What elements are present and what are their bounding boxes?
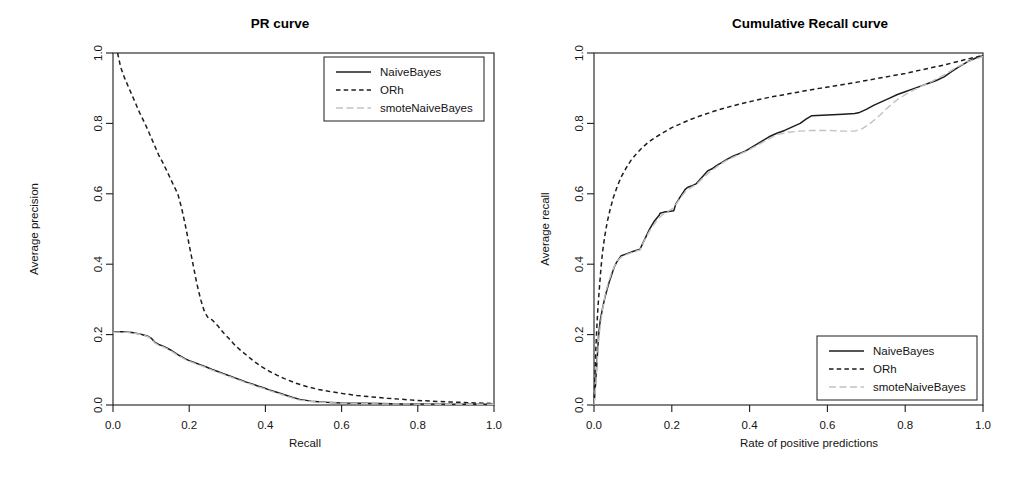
y-tick-label: 0.0 (92, 397, 104, 413)
y-tick-label: 0.2 (92, 327, 104, 343)
legend-label-NaiveBayes: NaiveBayes (380, 66, 442, 78)
x-tick-label: 0.0 (105, 419, 121, 431)
pr-curve-legend: NaiveBayesORhsmoteNaiveBayes (324, 57, 484, 121)
legend-label-ORh: ORh (380, 84, 404, 96)
x-tick-label: 0.8 (410, 419, 426, 431)
legend-label-NaiveBayes: NaiveBayes (873, 345, 935, 357)
x-tick-label: 0.4 (257, 419, 274, 431)
cumulative-recall-ylabel: Average recall (539, 192, 551, 265)
legend-label-ORh: ORh (873, 363, 897, 375)
y-tick-label: 0.6 (573, 186, 585, 202)
x-tick-label: 0.0 (586, 419, 602, 431)
cumulative-recall-xlabel: Rate of positive predictions (740, 437, 878, 449)
cumulative-recall-title: Cumulative Recall curve (732, 16, 889, 31)
y-tick-label: 0.8 (92, 115, 104, 131)
x-tick-label: 1.0 (486, 419, 502, 431)
figure-container: PR curve Recall Average precision 0.00.2… (0, 0, 1031, 497)
legend-label-smoteNaiveBayes: smoteNaiveBayes (380, 102, 473, 114)
x-tick-label: 0.6 (334, 419, 350, 431)
pr-curve-title: PR curve (251, 16, 310, 31)
y-tick-label: 1.0 (92, 45, 104, 61)
x-tick-label: 0.8 (897, 419, 913, 431)
pr-curve-ylabel: Average precision (28, 183, 40, 275)
pr-curve-xlabel: Recall (289, 437, 321, 449)
y-tick-label: 0.4 (573, 256, 585, 273)
panel-pr-curve: PR curve Recall Average precision 0.00.2… (0, 0, 515, 497)
y-tick-label: 0.4 (92, 256, 104, 273)
x-tick-label: 1.0 (975, 419, 991, 431)
y-tick-label: 0.6 (92, 186, 104, 202)
cumulative-recall-plot: Cumulative Recall curve Rate of positive… (515, 0, 1031, 497)
y-tick-label: 0.0 (573, 397, 585, 413)
x-tick-label: 0.4 (742, 419, 759, 431)
pr-curve-plot: PR curve Recall Average precision 0.00.2… (0, 0, 515, 497)
x-tick-label: 0.2 (664, 419, 680, 431)
cumulative-recall-legend: NaiveBayesORhsmoteNaiveBayes (817, 336, 977, 400)
y-tick-label: 1.0 (573, 45, 585, 61)
y-tick-label: 0.8 (573, 115, 585, 131)
series-line-NaiveBayes (113, 332, 494, 405)
y-tick-label: 0.2 (573, 327, 585, 343)
x-tick-label: 0.2 (181, 419, 197, 431)
x-tick-label: 0.6 (819, 419, 835, 431)
series-line-smoteNaiveBayes (113, 332, 494, 404)
panel-cumulative-recall-curve: Cumulative Recall curve Rate of positive… (515, 0, 1031, 497)
legend-label-smoteNaiveBayes: smoteNaiveBayes (873, 381, 966, 393)
